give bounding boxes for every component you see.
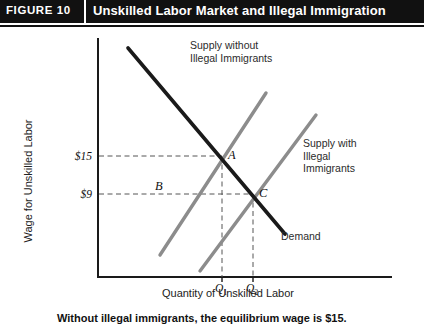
label-demand: Demand: [281, 230, 321, 243]
x-axis-title: Quantity of Unskilled Labor: [98, 287, 358, 299]
header-divider: [84, 0, 86, 23]
figure-title: Unskilled Labor Market and Illegal Immig…: [93, 3, 386, 18]
label-supply-without-illegal-immigrants: Supply without Illegal Immigrants: [190, 39, 272, 64]
point-label-a: A: [228, 148, 236, 163]
figure-number-badge: FIGURE 10: [6, 4, 71, 16]
figure-header-bar: FIGURE 10 Unskilled Labor Market and Ill…: [0, 0, 424, 23]
label-supply-with-illegal-immigrants: Supply with Illegal Immigrants: [303, 137, 357, 175]
curve-supply-without-illegal-immigrants: [160, 93, 266, 255]
chart-figure: Wage for Unskilled Labor $15 $9 Supply w…: [0, 27, 424, 308]
point-label-c: C: [259, 186, 267, 201]
curve-demand: [128, 48, 285, 234]
curve-supply-with-illegal-immigrants: [200, 115, 316, 271]
point-label-b: B: [155, 179, 163, 194]
y-tick-label-9: $9: [58, 188, 92, 200]
figure-caption: Without illegal immigrants, the equilibr…: [57, 312, 417, 324]
y-axis-title: Wage for Unskilled Labor: [22, 106, 34, 256]
y-tick-label-15: $15: [58, 150, 92, 162]
chart-plot-svg: [0, 27, 424, 308]
